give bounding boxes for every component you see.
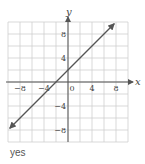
line-series [10, 24, 114, 128]
y-axis-label: y [65, 6, 72, 17]
x-tick-label: 8 [113, 84, 118, 93]
coordinate-graph: −8−404884−4−8 x y [0, 0, 145, 145]
x-axis-label: x [135, 76, 141, 87]
y-tick-label: 8 [61, 30, 66, 39]
y-tick-label: −8 [54, 126, 66, 135]
x-tick-label: 4 [89, 84, 94, 93]
axes [6, 17, 133, 142]
y-tick-label: 4 [61, 54, 66, 63]
x-tick-label: −8 [14, 84, 26, 93]
x-tick-label: −4 [38, 84, 50, 93]
y-tick-label: −4 [54, 102, 66, 111]
x-tick-label: 0 [69, 84, 74, 93]
answer-text: yes [10, 147, 26, 158]
plotted-line [10, 24, 114, 128]
